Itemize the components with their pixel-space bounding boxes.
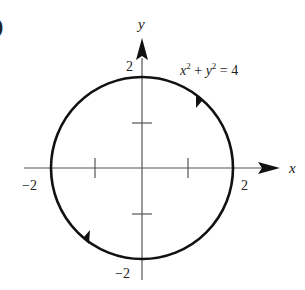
part-label: ): [0, 13, 3, 38]
y-axis: [136, 38, 148, 280]
y-axis-label: y: [136, 16, 145, 32]
x-tick-label-2: 2: [241, 178, 248, 193]
equation-label: x2 + y2 = 4: [179, 61, 238, 78]
y-axis-arrow-icon: [136, 38, 148, 60]
x-axis: [24, 162, 280, 174]
y-tick-label-neg2: −2: [115, 266, 130, 281]
x-tick-label-neg2: −2: [22, 178, 37, 193]
x-axis-label: x: [288, 160, 296, 176]
y-tick-label-2: 2: [126, 59, 133, 74]
circle-diagram: ) x y −2 2 2 −2 x: [0, 0, 305, 290]
direction-arrow-upper-icon: [196, 94, 208, 108]
